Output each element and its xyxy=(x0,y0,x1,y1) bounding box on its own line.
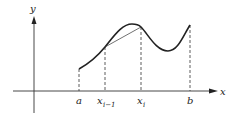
tick-label-b: b xyxy=(187,95,193,106)
tick-label-x-i-subscript: i xyxy=(143,101,145,109)
chord-segment xyxy=(105,27,141,47)
arc-length-diagram: y x a x i−1 x i b xyxy=(0,0,231,121)
y-axis-label: y xyxy=(29,3,36,14)
x-axis-label: x xyxy=(220,86,226,97)
x-axis-arrow-icon xyxy=(209,89,218,94)
tick-label-x-prev-subscript: i−1 xyxy=(103,101,116,109)
tick-label-a: a xyxy=(76,95,82,106)
y-axis-arrow-icon xyxy=(32,16,37,24)
